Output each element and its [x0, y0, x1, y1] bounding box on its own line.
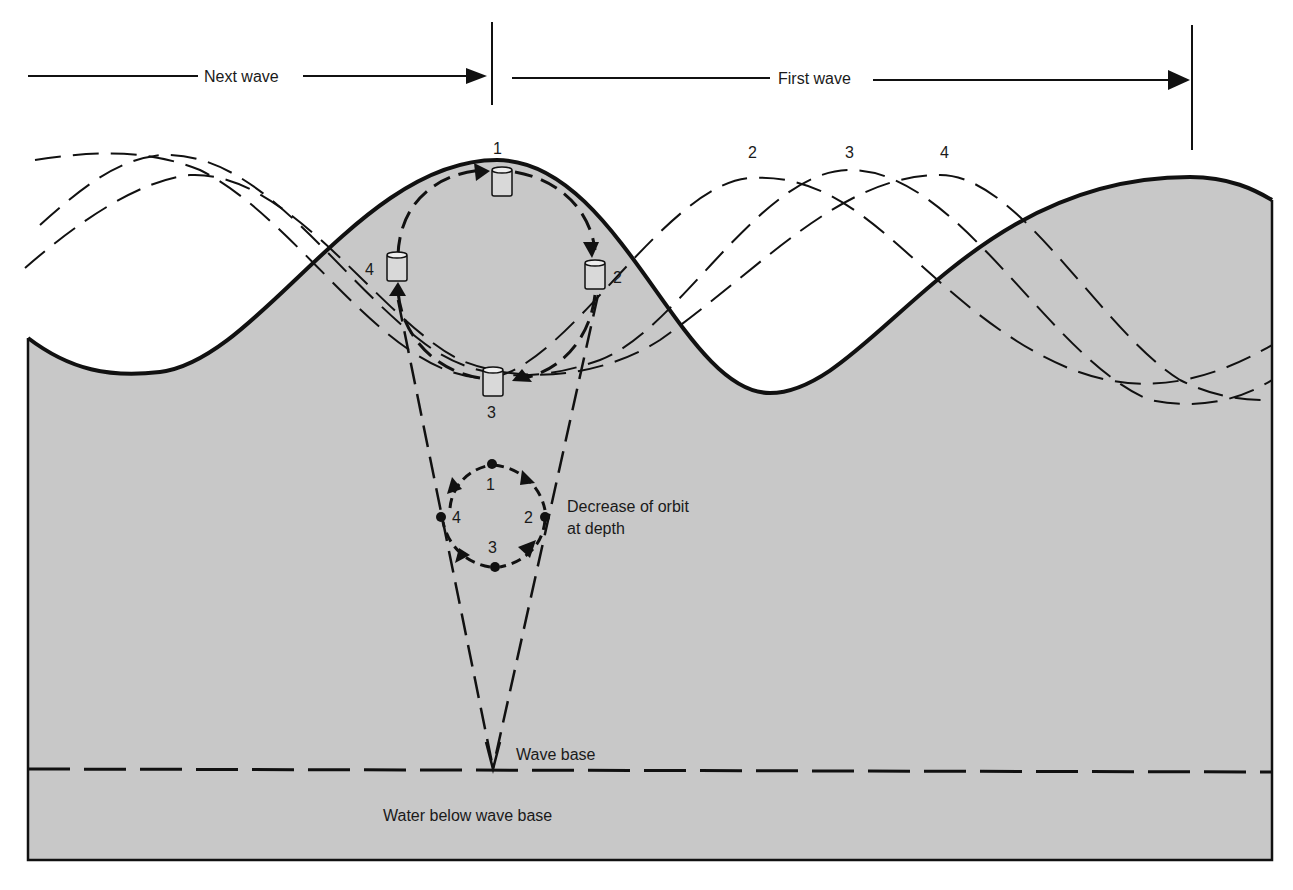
float-3-icon	[483, 367, 503, 396]
water-below-label: Water below wave base	[383, 807, 552, 824]
first-wave-arrowhead	[1168, 70, 1190, 90]
deep-position-1-label: 1	[486, 476, 495, 493]
float-4-label: 4	[365, 261, 374, 278]
particle-1-icon	[487, 459, 497, 469]
deep-position-4-label: 4	[452, 509, 461, 526]
particle-2-icon	[540, 512, 550, 522]
wavelength-arrows	[28, 22, 1192, 150]
deep-position-3-label: 3	[488, 539, 497, 556]
float-2-icon	[585, 260, 605, 289]
float-3-label: 3	[487, 404, 496, 421]
next-wave-label: Next wave	[204, 68, 279, 85]
decrease-orbit-label-line1: Decrease of orbit	[567, 498, 689, 515]
wave-orbit-diagram: Next wave First wave 1 2 3 4	[0, 0, 1293, 890]
wave-position-3-label: 3	[845, 144, 854, 161]
wave-position-4-label: 4	[940, 144, 949, 161]
decrease-orbit-label-line2: at depth	[567, 520, 625, 537]
particle-4-icon	[436, 512, 446, 522]
particle-3-icon	[490, 562, 500, 572]
deep-position-2-label: 2	[524, 509, 533, 526]
float-1-icon	[492, 167, 512, 196]
float-4-icon	[387, 252, 407, 281]
wave-position-2-label: 2	[748, 144, 757, 161]
wave-base-label: Wave base	[516, 746, 596, 763]
float-1-label: 1	[493, 140, 502, 157]
next-wave-arrowhead	[466, 68, 487, 84]
first-wave-label: First wave	[778, 70, 851, 87]
float-2-label: 2	[613, 269, 622, 286]
